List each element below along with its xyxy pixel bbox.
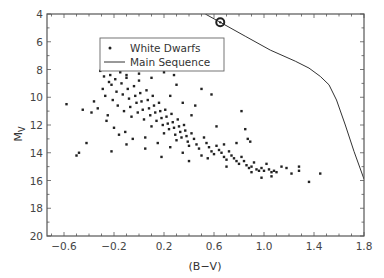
white-dwarf-point [137,111,139,113]
white-dwarf-point [273,170,275,172]
y-tick-label: 16 [30,175,44,187]
white-dwarf-point [133,85,135,87]
white-dwarf-point [180,136,182,138]
white-dwarf-point [182,152,184,154]
white-dwarf-point [178,125,180,127]
white-dwarf-point [208,146,210,148]
white-dwarf-point [82,109,84,111]
white-dwarf-point [260,167,262,169]
white-dwarf-point [142,109,144,111]
white-dwarf-point [175,139,177,141]
white-dwarf-point [200,88,202,90]
white-dwarf-point [249,140,251,142]
white-dwarf-point [319,172,321,174]
white-dwarf-point [107,114,109,116]
white-dwarf-point [104,95,106,97]
white-dwarf-point [105,120,107,122]
white-dwarf-point [169,146,171,148]
white-dwarf-point [139,92,141,94]
white-dwarf-point [215,145,217,147]
white-dwarf-point [110,150,112,152]
white-dwarf-point [198,147,200,149]
white-dwarf-point [145,89,147,91]
white-dwarf-point [138,79,140,81]
x-tick-label: −0.6 [51,240,77,252]
x-axis-label: (B−V) [189,260,222,273]
white-dwarf-point [250,171,252,173]
white-dwarf-point [144,136,146,138]
white-dwarf-point [129,106,131,108]
y-tick-label: 20 [30,230,43,242]
y-axis-label-main: M [12,132,25,142]
x-tick-label: 0.6 [206,240,223,252]
white-dwarf-point [103,75,105,77]
white-dwarf-point [255,168,257,170]
white-dwarf-point [152,95,154,97]
white-dwarf-point [290,172,292,174]
white-dwarf-point [102,88,104,90]
white-dwarf-point [235,160,237,162]
x-tick-label: 1.4 [306,240,323,252]
white-dwarf-point [160,117,162,119]
white-dwarf-point [200,154,202,156]
white-dwarf-point [153,104,155,106]
hr-diagram-chart: −0.6−0.20.20.61.01.41.8 468101214161820 … [0,0,384,278]
y-tick-label: 14 [30,147,44,159]
white-dwarf-point [174,134,176,136]
white-dwarf-point [275,171,277,173]
white-dwarf-point [260,177,262,179]
white-dwarf-point [93,100,95,102]
white-dwarf-point [179,131,181,133]
white-dwarf-point [207,157,209,159]
white-dwarf-point [210,150,212,152]
white-dwarf-point [143,118,145,120]
legend: White Dwarfs Main Sequence [100,38,224,71]
white-dwarf-point [230,154,232,156]
x-tick-label: −0.2 [101,240,127,252]
white-dwarf-point [114,78,116,80]
white-dwarf-point [223,143,225,145]
white-dwarf-point [308,181,310,183]
white-dwarf-point [240,156,242,158]
white-dwarf-point [163,132,165,134]
white-dwarf-point [165,115,167,117]
y-tick-label: 12 [30,119,43,131]
white-dwarf-point [123,110,125,112]
white-dwarf-point [120,82,122,84]
white-dwarf-point [134,95,136,97]
white-dwarf-point [228,150,230,152]
white-dwarf-point [225,165,227,167]
white-dwarf-point [205,142,207,144]
white-dwarf-point [175,84,177,86]
white-dwarf-point [150,125,152,127]
white-dwarf-point [298,165,300,167]
white-dwarf-point [75,154,77,156]
white-dwarf-point [157,142,159,144]
white-dwarf-point [213,153,215,155]
x-tick-label: 1.8 [356,240,373,252]
white-dwarf-point [170,113,172,115]
white-dwarf-point [244,128,246,130]
white-dwarf-point [127,88,129,90]
white-dwarf-point [128,97,130,99]
white-dwarf-point [125,143,127,145]
white-dwarf-point [78,152,80,154]
legend-label-main-sequence: Main Sequence [130,56,210,68]
white-dwarf-point [270,171,272,173]
white-dwarf-point [150,77,152,79]
white-dwarf-point [243,160,245,162]
white-dwarf-point [130,115,132,117]
white-dwarf-point [194,104,196,106]
white-dwarf-point [144,147,146,149]
white-dwarf-point [182,102,184,104]
white-dwarf-point [97,107,99,109]
white-dwarf-point [162,124,164,126]
y-tick-label: 4 [36,8,43,20]
white-dwarf-point [188,145,190,147]
white-dwarf-point [110,84,112,86]
x-tick-label: 1.0 [256,240,273,252]
white-dwarf-point [65,103,67,105]
white-dwarf-point [187,140,189,142]
white-dwarf-point [147,99,149,101]
white-dwarf-point [118,134,120,136]
